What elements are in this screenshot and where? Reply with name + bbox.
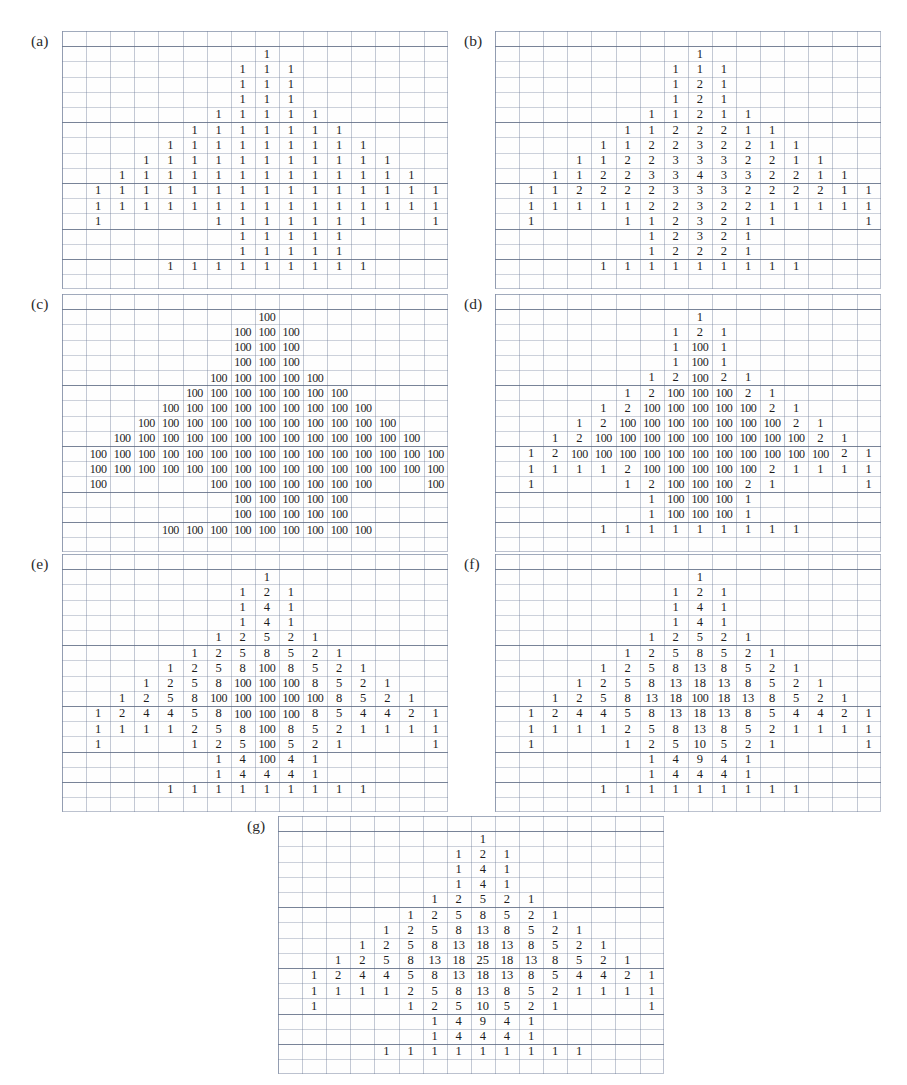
grid-cell: 100 [110,431,134,446]
grid-cell: 1 [760,137,784,152]
grid-cell: 1 [423,1044,447,1059]
grid-cell: 100 [303,691,327,706]
grid-cell: 100 [183,400,207,415]
grid-cell: 2 [543,446,567,461]
grid-cell: 1 [375,153,399,168]
grid-cell: 100 [183,461,207,476]
grid-cell: 100 [207,400,231,415]
grid-cell: 1 [158,660,182,675]
grid-cell: 1 [760,782,784,797]
grid-cell: 4 [255,767,279,782]
grid-cell: 1 [303,213,327,228]
grid-cell: 1 [567,416,591,431]
grid-cell: 100 [688,431,712,446]
grid-cell: 1 [664,355,688,370]
grid-cell: 100 [351,416,375,431]
grid-cell: 4 [350,968,374,983]
grid-cell: 13 [688,721,712,736]
grid-cell: 1 [279,183,303,198]
grid-cell: 4 [351,706,375,721]
grid-cell: 5 [207,721,231,736]
grid-cell: 1 [832,198,856,213]
grid-cell: 100 [255,370,279,385]
grid-cell: 100 [688,416,712,431]
grid-cell: 100 [207,461,231,476]
grid-cell: 8 [519,938,543,953]
grid-cell: 1 [712,92,736,107]
grid-cells-f: 1121141141125211258521125813852112581318… [495,554,881,812]
grid-cell: 1 [255,77,279,92]
grid-cell: 100 [134,416,158,431]
grid-cell: 1 [231,259,255,274]
grid-cell: 1 [423,1029,447,1044]
grid-cell: 100 [567,446,591,461]
grid-cell: 1 [543,198,567,213]
grid-cell: 100 [231,446,255,461]
grid-cell: 1 [327,259,351,274]
grid-cell: 1 [158,198,182,213]
grid-cell: 2 [760,153,784,168]
grid-a: 1111111111111111111111111111111111111111… [62,31,448,289]
grid-cell: 5 [183,676,207,691]
grid-cell: 1 [231,137,255,152]
grid-cell: 1 [183,137,207,152]
grid-cell: 2 [616,153,640,168]
grid-cell: 100 [255,736,279,751]
grid-cell: 1 [327,183,351,198]
grid-cell: 8 [495,922,519,937]
grid-cell: 1 [327,213,351,228]
grid-cell: 1 [712,782,736,797]
grid-cell: 1 [591,782,615,797]
grid-cell: 1 [784,137,808,152]
grid-cell: 1 [231,782,255,797]
grid-cell: 1 [231,600,255,615]
grid-cell: 1 [567,198,591,213]
grid-cell: 1 [134,198,158,213]
grid-cell: 1 [495,877,519,892]
grid-cell: 1 [207,137,231,152]
grid-cell: 2 [640,137,664,152]
grid-cell: 100 [279,416,303,431]
grid-cell: 1 [712,584,736,599]
grid-cell: 3 [688,137,712,152]
grid-cell: 1 [303,229,327,244]
grid-cell: 2 [664,244,688,259]
grid-cell: 100 [327,400,351,415]
grid-cell: 100 [664,461,688,476]
grid-cell: 1 [255,46,279,61]
grid-cell: 1 [134,676,158,691]
grid-cell: 1 [327,153,351,168]
grid-cell: 1 [303,137,327,152]
grid-cell: 1 [857,736,881,751]
grid-cell: 1 [424,183,448,198]
grid-cell: 1 [375,198,399,213]
grid-cell: 1 [351,183,375,198]
grid-cell: 8 [640,706,664,721]
grid-cell: 1 [375,676,399,691]
grid-cell: 1 [207,752,231,767]
grid-cell: 1 [183,198,207,213]
grid-cell: 2 [712,630,736,645]
grid-cell: 2 [640,153,664,168]
grid-cell: 8 [712,660,736,675]
grid-cell: 13 [712,676,736,691]
grid-cell: 100 [736,461,760,476]
grid-cell: 1 [255,153,279,168]
grid-cell: 1 [351,137,375,152]
grid-cell: 1 [351,213,375,228]
grid-cell: 100 [664,385,688,400]
grid-cell: 100 [664,446,688,461]
grid-cell: 3 [712,168,736,183]
grid-cell: 100 [279,340,303,355]
grid-cell: 2 [543,983,567,998]
grid-cell: 5 [495,907,519,922]
grid-cell: 1 [567,153,591,168]
grid-cell: 2 [736,476,760,491]
grid-cell: 100 [616,416,640,431]
grid-cell: 4 [591,706,615,721]
grid-cell: 5 [760,676,784,691]
grid-cell: 1 [424,721,448,736]
grid-cell: 1 [350,938,374,953]
grid-cell: 8 [616,691,640,706]
grid-cell: 1 [110,168,134,183]
